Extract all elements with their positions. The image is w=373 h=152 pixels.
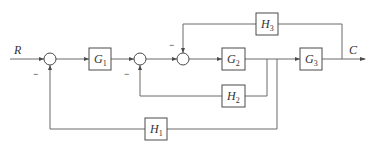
summing-junction-3 <box>177 53 189 65</box>
block-g2: G2 <box>222 48 245 70</box>
block-h2: H2 <box>222 85 245 107</box>
input-label: R <box>13 43 22 57</box>
block-h3: H3 <box>256 13 278 35</box>
summing-junction-1 <box>44 53 56 65</box>
sign-s1: − <box>33 69 38 79</box>
block-diagram: − − − R C G1 G2 G3 H1 H2 H3 <box>0 0 373 152</box>
block-h1: H1 <box>145 118 167 140</box>
block-g3: G3 <box>300 48 322 70</box>
block-g1: G1 <box>89 48 111 70</box>
sign-s2: − <box>124 69 129 79</box>
sign-s3: − <box>169 40 174 50</box>
output-label: C <box>349 43 358 57</box>
summing-junction-2 <box>134 53 146 65</box>
